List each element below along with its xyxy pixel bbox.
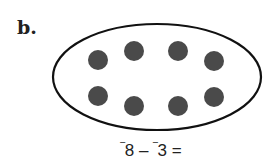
equals-sign: =	[167, 141, 182, 160]
counter-dot	[168, 96, 188, 116]
set-ellipse	[53, 24, 261, 130]
counter-dot	[124, 41, 144, 61]
operand-a: 8	[125, 141, 134, 160]
minus-operator: –	[134, 141, 153, 160]
equation: ‾8 – ‾3 =	[0, 140, 280, 161]
counter-dot	[88, 50, 108, 70]
counter-dot	[124, 96, 144, 116]
counter-dot	[168, 41, 188, 61]
counter-diagram	[0, 0, 280, 163]
counter-dot	[204, 87, 224, 107]
counter-dot	[204, 51, 224, 71]
counter-dot	[88, 86, 108, 106]
operand-b: 3	[157, 141, 166, 160]
